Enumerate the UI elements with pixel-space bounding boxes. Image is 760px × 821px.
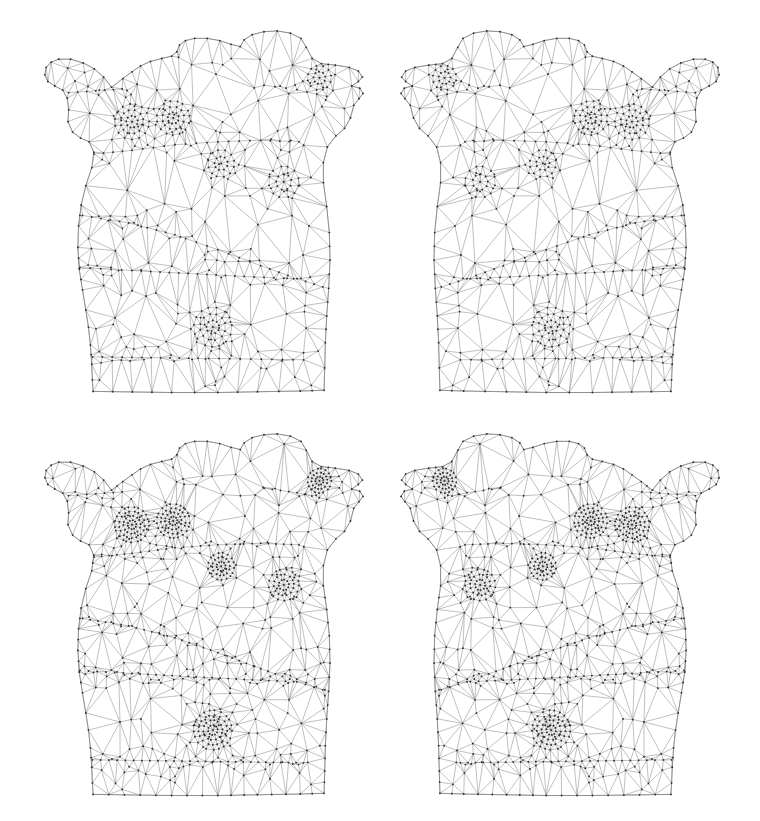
mesh-transform-group xyxy=(44,30,364,393)
mesh-canvas xyxy=(33,425,363,797)
mesh-canvas xyxy=(401,425,731,797)
mesh-transform-group xyxy=(400,433,720,796)
mesh-canvas xyxy=(401,22,731,394)
mesh-edge-set xyxy=(401,31,719,393)
mesh-transform-group xyxy=(400,30,720,393)
mesh-canvas xyxy=(33,22,363,394)
figure-root xyxy=(0,0,760,821)
bottom-left-mesh[interactable] xyxy=(33,425,363,797)
mesh-transform-group xyxy=(44,433,364,796)
mesh-edge-set xyxy=(45,31,363,393)
bottom-right-mesh[interactable] xyxy=(401,425,731,797)
top-right-mesh[interactable] xyxy=(401,22,731,394)
top-left-mesh[interactable] xyxy=(33,22,363,394)
